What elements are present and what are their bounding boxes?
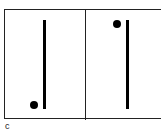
figure-label: c [5, 121, 10, 131]
left-panel-line [43, 20, 46, 109]
left-panel-dot [30, 101, 38, 109]
right-panel-line [126, 20, 129, 109]
diagram-frame [4, 9, 161, 119]
right-panel-dot [113, 20, 121, 28]
panel-divider [85, 9, 86, 120]
